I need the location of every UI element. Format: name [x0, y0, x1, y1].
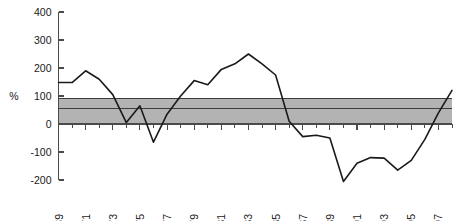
y-tick-label: -200: [30, 174, 51, 186]
y-tick-label: 200: [34, 62, 52, 74]
y-axis: 4003002001000-100-200 %: [9, 6, 63, 186]
y-tick-label: 400: [34, 6, 52, 18]
x-tick-label: 1997: [432, 214, 444, 221]
line-chart: 4003002001000-100-200 % 1969197119731975…: [0, 0, 463, 221]
x-tick-label: 1969: [53, 214, 65, 221]
y-tick-label: 0: [46, 118, 52, 130]
x-tick-label: 1975: [134, 214, 146, 221]
y-tick-label: -100: [30, 146, 51, 158]
x-tick-label: 1991: [351, 214, 363, 221]
y-axis-title: %: [9, 90, 18, 102]
x-tick-label: 1989: [324, 214, 336, 221]
x-tick-label: 1971: [80, 214, 92, 221]
y-tick-label: 100: [34, 90, 52, 102]
y-tick-label: 300: [34, 34, 52, 46]
x-axis: 1969197119731975197719791981198319851987…: [53, 124, 453, 221]
x-tick-label: 1977: [161, 214, 173, 221]
x-tick-group: [59, 124, 453, 130]
x-tick-label: 1995: [405, 214, 417, 221]
chart-container: 4003002001000-100-200 % 1969197119731975…: [0, 0, 463, 221]
x-tick-label: 1981: [215, 214, 227, 221]
x-tick-label: 1985: [270, 214, 282, 221]
x-tick-label: 1979: [188, 214, 200, 221]
x-tick-label: 1983: [242, 214, 254, 221]
x-tick-label: 1973: [107, 214, 119, 221]
x-tick-label: 1993: [378, 214, 390, 221]
x-tick-label-group: 1969197119731975197719791981198319851987…: [53, 214, 445, 221]
x-tick-label: 1987: [297, 214, 309, 221]
